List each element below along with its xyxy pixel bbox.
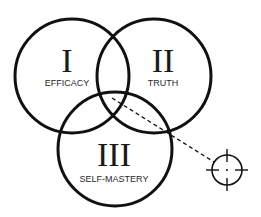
venn-diagram: I EFFICACY II TRUTH III SELF-MASTERY — [0, 0, 261, 217]
numeral-ii: II — [152, 42, 175, 79]
numeral-iii: III — [97, 136, 131, 173]
crosshair-icon — [206, 149, 248, 191]
label-truth: TRUTH — [148, 78, 179, 88]
label-self-mastery: SELF-MASTERY — [80, 174, 149, 184]
numeral-i: I — [61, 42, 72, 79]
label-efficacy: EFFICACY — [45, 78, 90, 88]
